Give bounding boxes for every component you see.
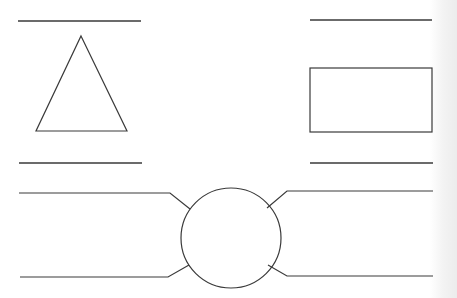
diagram-canvas: [0, 0, 457, 298]
connector-upper-left: [19, 193, 190, 209]
diagram-svg: [0, 0, 457, 298]
connector-lower-left: [20, 265, 189, 277]
rectangle-shape: [310, 68, 432, 132]
connector-lower-right: [268, 265, 433, 276]
triangle-shape: [36, 36, 127, 131]
connector-upper-right: [267, 191, 433, 208]
circle-shape: [181, 188, 281, 288]
